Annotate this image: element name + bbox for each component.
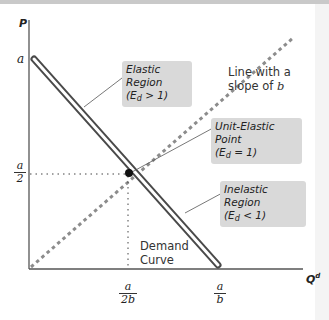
elastic-cond-pre: (E — [126, 89, 137, 101]
x-tick-half-den: 2b — [119, 294, 137, 306]
slope-line-label: Line with a slope of b — [228, 65, 291, 93]
unit-cond-pre: (E — [215, 146, 226, 158]
inelastic-cond-pre: (E — [224, 209, 235, 221]
x-axis-label-sup: d — [315, 272, 320, 280]
unit-condition: (Ed = 1) — [215, 146, 298, 162]
slope-label-line2: slope of b — [228, 79, 291, 93]
elastic-leader — [84, 78, 122, 107]
inelastic-title: Inelastic Region — [224, 183, 302, 209]
demand-curve-label: Demand Curve — [140, 239, 189, 267]
elastic-cond-post: > 1) — [142, 89, 168, 101]
demand-label-line2: Curve — [140, 253, 189, 267]
y-tick-a: a — [17, 53, 24, 66]
slope-label-pre: slope of — [228, 79, 277, 93]
inelastic-cond-post: < 1) — [240, 209, 266, 221]
unit-cond-post: = 1) — [231, 146, 257, 158]
y-axis-label: P — [19, 17, 27, 30]
elastic-region-label: Elastic Region (Ed > 1) — [122, 61, 192, 107]
elastic-title: Elastic Region — [126, 63, 188, 89]
demand-label-line1: Demand — [140, 239, 189, 253]
slope-label-line1: Line with a — [228, 65, 291, 79]
x-axis-label: Qd — [306, 272, 320, 286]
inelastic-condition: (Ed < 1) — [224, 209, 302, 225]
x-tick-a-over-2b: a 2b — [119, 281, 137, 306]
x-axis-label-text: Q — [306, 273, 315, 286]
y-tick-half-den: 2 — [14, 173, 26, 185]
unit-elastic-label: Unit-Elastic Point (Ed = 1) — [211, 118, 302, 164]
slope-label-var: b — [277, 79, 284, 93]
inelastic-region-label: Inelastic Region (Ed < 1) — [220, 181, 306, 227]
x-tick-full-den: b — [214, 294, 226, 306]
unit-leader — [132, 128, 213, 172]
unit-elastic-point — [125, 169, 133, 177]
unit-title: Unit-Elastic Point — [215, 120, 298, 146]
inelastic-leader — [185, 192, 224, 213]
y-tick-half-a: a 2 — [14, 160, 26, 185]
elastic-condition: (Ed > 1) — [126, 89, 188, 105]
x-tick-a-over-b: a b — [214, 281, 226, 306]
